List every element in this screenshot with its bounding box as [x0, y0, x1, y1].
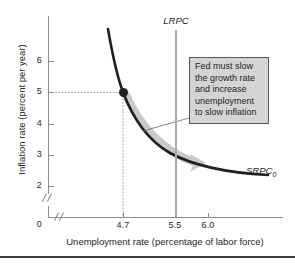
lrpc-label: LRPC — [152, 15, 200, 26]
x-tick-label-6-0: 6.0 — [193, 220, 223, 230]
y-axis-line — [48, 16, 49, 194]
equilibrium-guides — [49, 93, 123, 218]
callout-leader-line — [143, 118, 189, 131]
callout-line-2: the growth rate — [195, 73, 264, 85]
y-axis-title: Inflation rate (percent per year) — [16, 15, 27, 205]
y-tick-label-4: 4 — [28, 118, 42, 128]
x-axis-line — [48, 217, 283, 218]
y-tick-label-6: 6 — [28, 55, 42, 65]
x-tick-4-7 — [123, 213, 124, 218]
equilibrium-point-marker — [119, 88, 128, 97]
x-tick-label-5-5: 5.5 — [160, 220, 190, 230]
phillips-curve-figure: 6 5 4 3 2 0 4.7 5.5 6.0 Inflation rate (… — [0, 0, 295, 263]
srpc-label-subscript: 0 — [272, 171, 276, 178]
y-tick-3 — [49, 155, 54, 156]
plot-area — [0, 0, 295, 263]
y-tick-2 — [49, 186, 54, 187]
srpc-curve-label: SRPC0 — [246, 165, 276, 178]
callout-line-3: and increase — [195, 84, 264, 96]
callout-line-4: unemployment — [195, 96, 264, 108]
x-tick-label-4-7: 4.7 — [108, 220, 138, 230]
y-tick-label-3: 3 — [28, 149, 42, 159]
y-tick-4 — [49, 124, 54, 125]
callout-line-1: Fed must slow — [195, 61, 264, 73]
y-tick-5 — [49, 92, 54, 93]
y-tick-6 — [49, 61, 54, 62]
y-tick-label-5: 5 — [28, 86, 42, 96]
policy-callout-box: Fed must slow the growth rate and increa… — [189, 57, 269, 124]
lrpc-vertical-line — [175, 30, 177, 217]
x-tick-6-0 — [208, 213, 209, 218]
srpc-label-text: SRPC — [246, 165, 272, 176]
bottom-divider-rule — [0, 256, 295, 258]
callout-line-5: to slow inflation — [195, 107, 264, 119]
x-axis-title: Unemployment rate (percentage of labor f… — [40, 236, 290, 247]
y-tick-label-0: 0 — [28, 219, 42, 229]
y-tick-label-2: 2 — [28, 180, 42, 190]
